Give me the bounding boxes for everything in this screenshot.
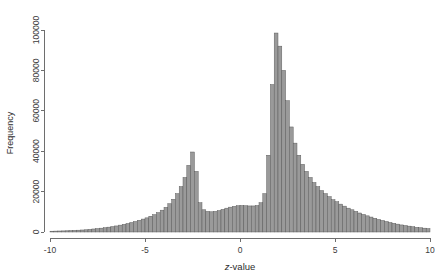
histogram-bar: [354, 211, 358, 232]
histogram-bar: [320, 191, 324, 232]
histogram-bar: [358, 213, 362, 232]
histogram-bar: [175, 194, 179, 232]
histogram-bar: [255, 206, 259, 232]
histogram-bar: [297, 155, 301, 232]
histogram-bar: [191, 152, 195, 232]
histogram-bar: [343, 206, 347, 232]
histogram-bar: [263, 194, 267, 232]
x-axis-title-rest-part: -value: [229, 261, 255, 272]
histogram-bar: [141, 219, 145, 232]
histogram-bar: [373, 218, 377, 232]
y-tick-label: 20000: [31, 180, 41, 204]
histogram-bar: [137, 220, 141, 232]
histogram-bar: [221, 209, 225, 232]
histogram-bar: [96, 229, 100, 232]
histogram-bar: [145, 218, 149, 232]
histogram-bar: [396, 224, 400, 232]
histogram-bar: [267, 155, 271, 232]
x-axis-title: z-value: [224, 261, 256, 272]
histogram-bar: [278, 46, 282, 232]
x-tick-label: 10: [425, 245, 435, 255]
histogram-bar: [134, 222, 138, 233]
histogram-bar: [346, 208, 350, 232]
histogram-bar: [422, 228, 426, 232]
histogram-bar: [88, 229, 92, 232]
y-tick-label: 40000: [31, 139, 41, 163]
histogram-bar: [365, 216, 369, 232]
histogram-bar: [282, 70, 286, 232]
histogram-bar: [327, 197, 331, 232]
histogram-bar: [270, 85, 274, 232]
y-tick-label: 60000: [31, 99, 41, 123]
histogram-bar: [381, 220, 385, 232]
histogram-bar: [115, 226, 119, 232]
y-tick-label: 80000: [31, 58, 41, 82]
histogram-bar: [293, 143, 297, 232]
histogram-bar: [122, 224, 126, 232]
histogram-bar: [77, 230, 81, 232]
histogram-bar: [415, 227, 419, 232]
histogram-bar: [403, 226, 407, 232]
histogram-bar: [407, 226, 411, 232]
histogram-bar: [80, 230, 84, 232]
histogram-bar: [312, 183, 316, 232]
histogram-bar: [400, 225, 404, 232]
histogram-bar: [73, 230, 77, 232]
histogram-bar: [164, 207, 168, 232]
x-tick-label: 5: [333, 245, 338, 255]
histogram-bar: [103, 228, 107, 232]
histogram-bar: [187, 165, 191, 232]
histogram-bar: [198, 203, 202, 232]
histogram-bar: [126, 224, 130, 232]
histogram-bar: [50, 231, 54, 232]
histogram-bar: [426, 229, 430, 232]
chart-canvas: 020000400006000080000100000-10-50510 Fre…: [0, 0, 448, 275]
y-tick-label: 0: [31, 229, 41, 234]
histogram-bar: [149, 216, 153, 232]
x-tick-label: 0: [238, 245, 243, 255]
histogram-bar: [248, 206, 252, 232]
histogram-bar: [69, 231, 73, 232]
histogram-bar: [240, 206, 244, 232]
histogram-bar: [229, 207, 233, 232]
histogram-bar: [92, 229, 96, 232]
histogram-bar: [172, 199, 176, 232]
histogram-bar: [411, 227, 415, 232]
y-tick-label: 100000: [31, 16, 41, 45]
histogram-bar: [118, 225, 122, 232]
histogram-bar: [324, 194, 328, 232]
histogram-bar: [206, 211, 210, 232]
histogram-bar: [156, 213, 160, 232]
histogram-chart: 020000400006000080000100000-10-50510 Fre…: [0, 0, 448, 275]
histogram-bar: [194, 171, 198, 232]
histogram-bar: [305, 171, 309, 232]
histogram-bar: [168, 204, 172, 232]
bars-group: [50, 33, 430, 232]
histogram-bar: [259, 203, 263, 232]
histogram-bar: [217, 211, 221, 232]
histogram-bar: [369, 217, 373, 232]
histogram-bar: [107, 227, 111, 232]
histogram-bar: [274, 33, 278, 232]
y-axis-title: Frequency: [5, 111, 15, 154]
histogram-bar: [202, 210, 206, 232]
histogram-bar: [331, 200, 335, 232]
histogram-bar: [61, 231, 65, 232]
histogram-bar: [362, 214, 366, 232]
histogram-bar: [244, 206, 248, 232]
histogram-bar: [153, 215, 157, 232]
histogram-bar: [419, 228, 423, 232]
x-tick-label: -10: [44, 245, 57, 255]
histogram-bar: [289, 127, 293, 232]
histogram-bar: [392, 223, 396, 232]
histogram-bar: [384, 222, 388, 233]
histogram-bar: [130, 223, 134, 232]
histogram-bar: [84, 230, 88, 232]
histogram-bar: [111, 227, 115, 232]
histogram-bar: [58, 231, 62, 232]
histogram-bar: [301, 164, 305, 232]
x-tick-label: -5: [141, 245, 149, 255]
histogram-bar: [350, 210, 354, 232]
histogram-bar: [308, 177, 312, 232]
histogram-bar: [54, 231, 58, 232]
